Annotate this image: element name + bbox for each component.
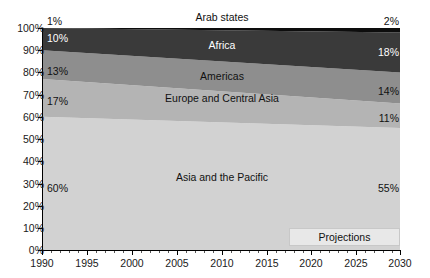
x-tick-label-2010: 2010 xyxy=(210,258,233,269)
x-tick-mark-2025 xyxy=(356,251,357,255)
x-minor-tick-2018 xyxy=(294,251,295,253)
x-minor-tick-2003 xyxy=(159,251,160,253)
y-tick-label-80: 80% xyxy=(23,67,44,77)
projections-label: Projections xyxy=(319,231,371,243)
x-minor-tick-1996 xyxy=(96,251,97,253)
x-tick-label-1995: 1995 xyxy=(75,258,98,269)
x-minor-tick-2001 xyxy=(141,251,142,253)
x-minor-tick-2027 xyxy=(374,251,375,253)
x-minor-tick-2006 xyxy=(186,251,187,253)
y-tick-label-60: 60% xyxy=(23,112,44,122)
x-tick-mark-2010 xyxy=(222,251,223,255)
stacked-area-svg xyxy=(42,28,400,250)
x-minor-tick-1991 xyxy=(51,251,52,253)
y-tick-label-50: 50% xyxy=(23,134,44,144)
series-label-arab-states: Arab states xyxy=(195,12,248,23)
value-label-africa-2030: 18% xyxy=(378,47,399,58)
y-tick-label-100: 100% xyxy=(17,23,44,33)
x-tick-label-2020: 2020 xyxy=(299,258,322,269)
x-minor-tick-2029 xyxy=(392,251,393,253)
x-axis-line xyxy=(42,250,401,251)
y-tick-label-90: 90% xyxy=(23,45,44,55)
x-minor-tick-2013 xyxy=(249,251,250,253)
series-label-americas: Americas xyxy=(200,71,244,82)
y-tick-label-10: 10% xyxy=(23,223,44,233)
x-minor-tick-1994 xyxy=(78,251,79,253)
series-label-europe-and-central-asia: Europe and Central Asia xyxy=(165,93,279,104)
x-minor-tick-2019 xyxy=(303,251,304,253)
x-tick-mark-2005 xyxy=(177,251,178,255)
x-minor-tick-2008 xyxy=(204,251,205,253)
x-tick-label-2030: 2030 xyxy=(388,258,411,269)
x-minor-tick-2021 xyxy=(320,251,321,253)
x-minor-tick-2023 xyxy=(338,251,339,253)
x-minor-tick-1992 xyxy=(60,251,61,253)
x-minor-tick-2014 xyxy=(258,251,259,253)
value-label-asia-and-the-pacific-1990: 60% xyxy=(47,183,68,194)
y-tick-label-40: 40% xyxy=(23,156,44,166)
stacked-area-chart: 100% 90% 80% 70% 60% 50% 40% 30% 20% 10%… xyxy=(0,0,430,278)
x-tick-mark-2020 xyxy=(311,251,312,255)
value-label-americas-2030: 14% xyxy=(378,86,399,97)
y-axis-line xyxy=(42,28,43,251)
value-label-europe-and-central-asia-2030: 11% xyxy=(379,113,399,124)
plot-area xyxy=(42,28,400,250)
x-tick-mark-2015 xyxy=(267,251,268,255)
x-tick-label-2025: 2025 xyxy=(344,258,367,269)
x-tick-mark-1995 xyxy=(87,251,88,255)
value-label-asia-and-the-pacific-2030: 55% xyxy=(378,183,399,194)
value-label-americas-1990: 13% xyxy=(47,66,68,77)
x-tick-label-1990: 1990 xyxy=(30,258,53,269)
x-minor-tick-2022 xyxy=(329,251,330,253)
x-minor-tick-2026 xyxy=(365,251,366,253)
x-minor-tick-2009 xyxy=(213,251,214,253)
x-minor-tick-2011 xyxy=(231,251,232,253)
projections-annotation: Projections xyxy=(289,228,400,246)
x-minor-tick-1993 xyxy=(69,251,70,253)
series-label-africa: Africa xyxy=(209,40,236,51)
x-minor-tick-2024 xyxy=(347,251,348,253)
x-minor-tick-2016 xyxy=(276,251,277,253)
series-label-asia-and-the-pacific: Asia and the Pacific xyxy=(176,172,268,183)
value-label-arab-states-2030: 2% xyxy=(384,16,399,27)
x-tick-mark-2000 xyxy=(132,251,133,255)
x-minor-tick-2017 xyxy=(285,251,286,253)
y-tick-label-30: 30% xyxy=(23,179,44,189)
x-minor-tick-2004 xyxy=(168,251,169,253)
x-minor-tick-2012 xyxy=(240,251,241,253)
x-tick-mark-1990 xyxy=(42,251,43,255)
x-tick-label-2000: 2000 xyxy=(120,258,143,269)
x-minor-tick-2007 xyxy=(195,251,196,253)
x-minor-tick-1998 xyxy=(114,251,115,253)
x-minor-tick-2028 xyxy=(383,251,384,253)
value-label-europe-and-central-asia-1990: 17% xyxy=(47,96,68,107)
x-tick-label-2015: 2015 xyxy=(255,258,278,269)
value-label-africa-1990: 10% xyxy=(47,33,68,44)
y-tick-label-20: 20% xyxy=(23,201,44,211)
x-tick-label-2005: 2005 xyxy=(165,258,188,269)
value-label-arab-states-1990: 1% xyxy=(47,16,62,27)
y-tick-label-70: 70% xyxy=(23,90,44,100)
x-minor-tick-1999 xyxy=(123,251,124,253)
x-minor-tick-2002 xyxy=(150,251,151,253)
x-tick-mark-2030 xyxy=(400,251,401,255)
x-minor-tick-1997 xyxy=(105,251,106,253)
